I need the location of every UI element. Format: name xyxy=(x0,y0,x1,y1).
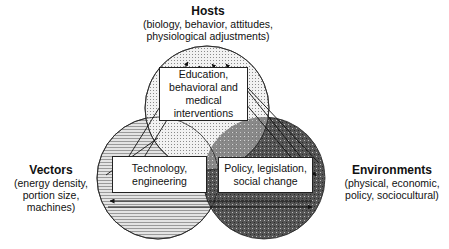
technology-line2: engineering xyxy=(132,175,187,188)
environments-desc-line2: policy, sociocultural) xyxy=(336,189,448,201)
technology-line1: Technology, xyxy=(132,162,187,175)
education-line2: behavioral and xyxy=(169,81,238,94)
environments-desc-line1: (physical, economic, xyxy=(336,177,448,189)
hosts-desc-line1: (biology, behavior, attitudes, xyxy=(133,18,283,30)
vectors-label: Vectors (energy density, portion size, m… xyxy=(2,163,100,213)
policy-line2: social change xyxy=(224,175,307,188)
vectors-desc-line1: (energy density, xyxy=(2,177,100,189)
vectors-desc-line2: portion size, xyxy=(2,189,100,201)
environments-label: Environments (physical, economic, policy… xyxy=(336,163,448,201)
vectors-title: Vectors xyxy=(2,163,100,177)
environments-title: Environments xyxy=(336,163,448,177)
technology-box: Technology, engineering xyxy=(112,156,207,193)
hosts-title: Hosts xyxy=(133,4,283,18)
education-line1: Education, xyxy=(169,68,238,81)
education-line4: interventions xyxy=(169,107,238,120)
policy-box: Policy, legislation, social change xyxy=(218,157,313,193)
hosts-desc-line2: physiological adjustments) xyxy=(133,30,283,42)
education-box: Education, behavioral and medical interv… xyxy=(159,67,248,121)
hosts-label: Hosts (biology, behavior, attitudes, phy… xyxy=(133,4,283,42)
policy-line1: Policy, legislation, xyxy=(224,162,307,175)
vectors-desc-line3: machines) xyxy=(2,201,100,213)
education-line3: medical xyxy=(169,94,238,107)
